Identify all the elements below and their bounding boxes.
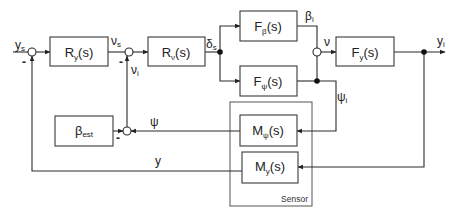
block-mpsi: Mψ(s)	[240, 115, 297, 146]
branch-dot-deltas	[217, 49, 223, 55]
sum-junction-nus	[125, 48, 133, 56]
sum-junction-nu	[313, 48, 321, 56]
branch-dot-psii	[314, 78, 320, 84]
sum-junction-psi	[123, 127, 131, 135]
block-fbeta: Fβ(s)	[240, 11, 297, 41]
sum-junction-ys	[28, 48, 36, 56]
svg-text:Fy(s): Fy(s)	[351, 45, 378, 62]
block-beta-est: βest	[55, 116, 113, 146]
signal-label-y: y	[155, 154, 161, 168]
minus-sign-psi: -	[116, 131, 120, 145]
block-my: My(s)	[242, 152, 298, 183]
svg-text:Mψ(s): Mψ(s)	[252, 123, 284, 140]
wire-branch-to-fbeta	[220, 26, 240, 52]
signal-label-yi: yi	[437, 34, 445, 49]
block-diagram: Sensor - - - Ry(s) Rν	[0, 0, 459, 219]
wire-branch-to-fpsi	[220, 52, 240, 81]
block-fpsi: Fψ(s)	[240, 66, 297, 96]
sensor-label: Sensor	[281, 194, 308, 204]
signal-label-nus: νs	[111, 34, 121, 49]
block-ry: Ry(s)	[50, 37, 108, 66]
minus-sign-ys: -	[22, 55, 26, 69]
svg-text:Fβ(s): Fβ(s)	[254, 19, 282, 36]
signal-label-psi: ψ	[150, 115, 159, 129]
svg-text:Fψ(s): Fψ(s)	[254, 74, 283, 91]
signal-label-betai: βi	[305, 9, 314, 24]
svg-text:Rν(s): Rν(s)	[162, 45, 191, 62]
wire-fbeta-to-sum3	[297, 26, 317, 48]
block-fy: Fy(s)	[336, 37, 394, 66]
svg-text:Ry(s): Ry(s)	[65, 45, 94, 62]
signal-label-psii: ψi	[337, 90, 348, 105]
svg-text:My(s): My(s)	[255, 159, 285, 176]
block-rv: Rν(s)	[148, 37, 205, 66]
wire-psii-to-mpsi	[297, 81, 336, 131]
signal-label-ys: ys	[15, 38, 25, 53]
signal-label-nui: νi	[131, 63, 139, 78]
signal-label-nu: ν	[324, 35, 330, 49]
branch-dot-yi	[421, 49, 427, 55]
signal-label-deltas: δs	[206, 37, 217, 52]
minus-sign-nus: -	[119, 55, 123, 69]
